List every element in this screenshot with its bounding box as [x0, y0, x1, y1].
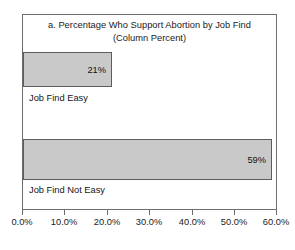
bar-value-label: 59% — [247, 155, 266, 165]
x-tick-label: 50.0% — [221, 217, 247, 227]
chart-title-line-1: a. Percentage Who Support Abortion by Jo… — [23, 19, 276, 32]
category-label-job-find-not-easy: Job Find Not Easy — [29, 185, 105, 195]
x-tick-label: 20.0% — [94, 217, 120, 227]
chart-title-line-2: (Column Percent) — [23, 32, 276, 45]
x-axis-ticks — [22, 210, 277, 216]
bar-job-find-easy: 21% — [23, 52, 112, 87]
x-axis-labels: 0.0% 10.0% 20.0% 30.0% 40.0% 50.0% 60.0% — [0, 217, 295, 233]
x-tick-label: 10.0% — [51, 217, 77, 227]
axis-tick — [149, 210, 150, 215]
axis-tick — [276, 210, 277, 215]
axis-tick — [107, 210, 108, 215]
chart-title: a. Percentage Who Support Abortion by Jo… — [23, 19, 276, 44]
x-tick-label: 30.0% — [136, 217, 162, 227]
axis-tick — [22, 210, 23, 215]
x-tick-label: 40.0% — [179, 217, 205, 227]
bar-chart: a. Percentage Who Support Abortion by Jo… — [0, 0, 295, 250]
bar-value-label: 21% — [87, 65, 106, 75]
x-tick-label: 0.0% — [11, 217, 32, 227]
axis-tick — [64, 210, 65, 215]
bar-job-find-not-easy: 59% — [23, 139, 272, 180]
axis-tick — [192, 210, 193, 215]
axis-tick — [234, 210, 235, 215]
category-label-job-find-easy: Job Find Easy — [29, 93, 88, 103]
plot-area: a. Percentage Who Support Abortion by Jo… — [22, 14, 277, 210]
x-tick-label: 60.0% — [263, 217, 289, 227]
